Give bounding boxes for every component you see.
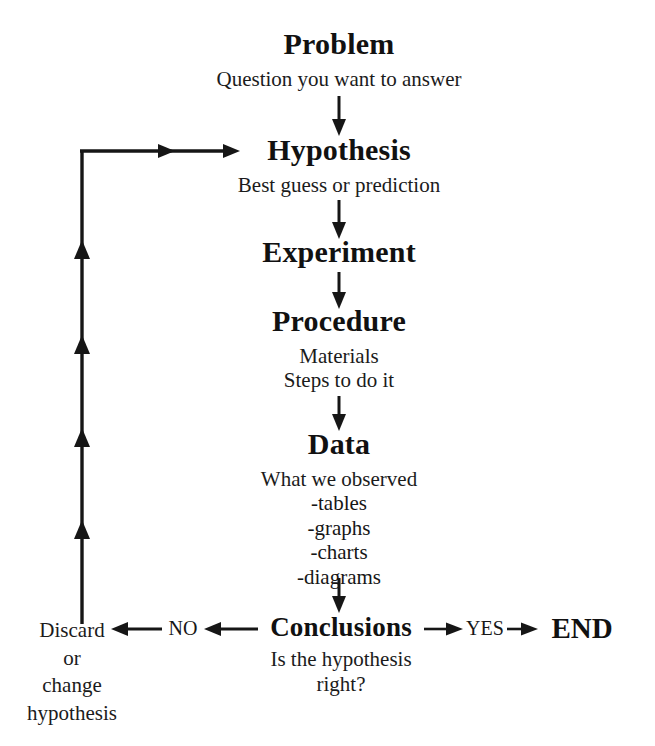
feedback-arrowhead-1 (74, 240, 90, 259)
branch-discard-line-1: Discard (27, 617, 117, 645)
feedback-arrowhead-5 (158, 144, 175, 158)
stage-problem-subtitle: Question you want to answer (217, 67, 462, 92)
branch-discard-line-4: hypothesis (27, 700, 117, 728)
arrow-yes-to-end (507, 623, 538, 636)
arrow-problem-to-hypothesis (332, 96, 346, 136)
stage-procedure-materials: Materials (272, 344, 406, 369)
stage-data-title: Data (261, 428, 417, 460)
stage-data: Data What we observed -tables -graphs -c… (261, 428, 417, 589)
arrow-procedure-to-data (332, 396, 346, 431)
stage-experiment: Experiment (262, 236, 416, 268)
branch-discard-line-3: change (27, 672, 117, 700)
stage-data-subtitle: What we observed (261, 467, 417, 492)
stage-conclusions-title: Conclusions (270, 613, 412, 641)
arrow-hypothesis-to-experiment (332, 200, 346, 239)
stage-data-item-diagrams: -diagrams (261, 565, 417, 590)
arrow-feedback-loop-to-hypothesis (74, 144, 240, 624)
arrow-no-to-discard (111, 622, 162, 636)
stage-hypothesis-title: Hypothesis (238, 134, 440, 166)
stage-problem: Problem Question you want to answer (217, 28, 462, 91)
stage-conclusions-question-line-2: right? (270, 672, 412, 697)
branch-label-yes: YES (466, 618, 504, 639)
arrow-conclusions-to-no (204, 622, 258, 636)
feedback-arrowhead-3 (74, 428, 90, 447)
feedback-arrowhead-2 (74, 335, 90, 354)
stage-data-item-tables: -tables (261, 491, 417, 516)
branch-discard-block: Discard or change hypothesis (27, 617, 117, 728)
stage-procedure-title: Procedure (272, 305, 406, 337)
stage-procedure: Procedure Materials Steps to do it (272, 305, 406, 393)
stage-end: END (551, 613, 612, 643)
stage-data-item-charts: -charts (261, 540, 417, 565)
branch-label-no: NO (169, 618, 198, 639)
branch-discard-line-2: or (27, 645, 117, 673)
stage-procedure-steps: Steps to do it (272, 368, 406, 393)
stage-data-item-graphs: -graphs (261, 516, 417, 541)
stage-conclusions-question-line-1: Is the hypothesis (270, 647, 412, 672)
feedback-arrowhead-4 (74, 520, 90, 539)
stage-conclusions: Conclusions Is the hypothesis right? (270, 613, 412, 696)
stage-hypothesis: Hypothesis Best guess or prediction (238, 134, 440, 197)
stage-problem-title: Problem (217, 28, 462, 60)
arrow-conclusions-to-yes (424, 623, 463, 636)
stage-hypothesis-subtitle: Best guess or prediction (238, 173, 440, 198)
scientific-method-flowchart: Problem Question you want to answer Hypo… (0, 0, 655, 746)
stage-experiment-title: Experiment (262, 236, 416, 268)
